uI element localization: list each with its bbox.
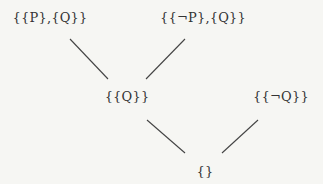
edge-n4-n5 <box>222 120 258 153</box>
node-empty-set: {} <box>197 164 214 180</box>
node-notq: {{¬Q}} <box>253 89 309 105</box>
node-label: {} <box>197 164 214 179</box>
diagram-canvas: {{P},{Q}} {{¬P},{Q}} {{Q}} {{¬Q}} {} <box>0 0 323 184</box>
edge-n2-n3 <box>146 39 185 79</box>
node-label: {{P},{Q}} <box>13 10 88 25</box>
node-label: {{¬P},{Q}} <box>160 10 246 25</box>
edge-n1-n3 <box>70 39 108 79</box>
node-p-q: {{P},{Q}} <box>13 10 88 26</box>
node-notp-q: {{¬P},{Q}} <box>160 10 246 26</box>
node-label: {{¬Q}} <box>253 89 309 104</box>
node-label: {{Q}} <box>105 89 150 104</box>
node-q: {{Q}} <box>105 89 150 105</box>
edge-n3-n5 <box>147 120 185 153</box>
